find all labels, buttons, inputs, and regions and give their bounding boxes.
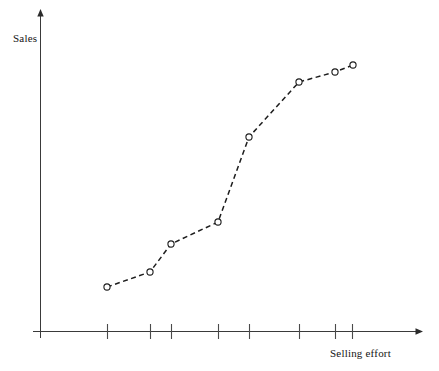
y-axis	[37, 9, 43, 338]
data-point-marker	[147, 269, 153, 275]
sales-response-curve-chart: Sales Selling effort	[0, 0, 439, 371]
data-point-marker	[296, 79, 302, 85]
data-point-marker	[350, 62, 356, 68]
data-point-marker	[215, 219, 221, 225]
x-axis-right-arrow-icon	[416, 328, 424, 334]
data-point-marker	[246, 134, 252, 140]
x-axis-label: Selling effort	[330, 347, 391, 359]
series-line-sales	[107, 65, 353, 287]
chart-container: Sales Selling effort	[0, 0, 439, 371]
data-point-marker	[104, 284, 110, 290]
series-markers	[104, 62, 356, 290]
y-axis-up-arrow-icon	[37, 9, 43, 17]
data-point-marker	[332, 69, 338, 75]
data-point-marker	[168, 241, 174, 247]
y-axis-label: Sales	[13, 32, 37, 44]
x-axis	[33, 328, 423, 334]
